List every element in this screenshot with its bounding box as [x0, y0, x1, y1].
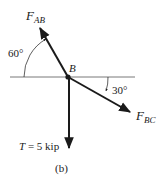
angle-30-label: 30°	[112, 84, 127, 96]
force-fbc-label: FBC	[135, 108, 156, 125]
force-t-label: T = 5 kip	[19, 140, 60, 152]
point-b-dot	[65, 74, 70, 79]
point-b-label: B	[69, 62, 76, 74]
angle-arc-60	[24, 39, 46, 77]
free-body-diagram: FAB 60° B 30° FBC T = 5 kip (b)	[0, 0, 165, 179]
figure-caption: (b)	[55, 162, 68, 175]
angle-arc-30	[106, 77, 108, 91]
force-fab-arrow	[40, 28, 68, 77]
angle-60-label: 60°	[8, 47, 23, 59]
force-fab-label: FAB	[25, 8, 45, 25]
